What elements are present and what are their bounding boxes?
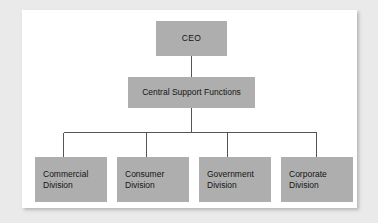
- node-consumer-division[interactable]: Consumer Division: [117, 157, 189, 202]
- org-chart: CEO Central Support Functions Commercial…: [22, 10, 357, 208]
- node-government-division-label: Government Division: [207, 169, 254, 191]
- node-central-support-functions-label: Central Support Functions: [142, 87, 241, 98]
- node-commercial-division[interactable]: Commercial Division: [35, 157, 107, 202]
- node-corporate-division[interactable]: Corporate Division: [281, 157, 353, 202]
- diagram-panel: CEO Central Support Functions Commercial…: [22, 10, 357, 208]
- node-ceo-label: CEO: [182, 33, 201, 44]
- node-consumer-division-label: Consumer Division: [125, 169, 164, 191]
- node-commercial-division-label: Commercial Division: [43, 169, 88, 191]
- node-government-division[interactable]: Government Division: [199, 157, 271, 202]
- node-corporate-division-label: Corporate Division: [289, 169, 327, 191]
- node-ceo[interactable]: CEO: [156, 21, 227, 56]
- node-central-support-functions[interactable]: Central Support Functions: [128, 77, 255, 108]
- chart-canvas: CEO Central Support Functions Commercial…: [0, 0, 378, 223]
